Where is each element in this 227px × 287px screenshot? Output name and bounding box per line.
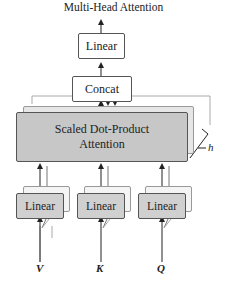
output-linear-box: Linear — [78, 33, 125, 59]
input-k-label: K — [96, 262, 103, 274]
linear-v-box: Linear — [16, 193, 64, 219]
diagram-title: Multi-Head Attention — [0, 1, 227, 13]
attention-label-line1: Scaled Dot-Product — [55, 122, 149, 137]
input-v-label: V — [36, 262, 43, 274]
linear-k-box: Linear — [77, 193, 125, 219]
concat-box: Concat — [72, 76, 132, 102]
heads-label: h — [208, 141, 214, 153]
attention-label-line2: Attention — [55, 137, 149, 152]
linear-q-box: Linear — [138, 193, 186, 219]
attention-box: Scaled Dot-Product Attention — [16, 112, 188, 162]
input-q-label: Q — [157, 262, 165, 274]
